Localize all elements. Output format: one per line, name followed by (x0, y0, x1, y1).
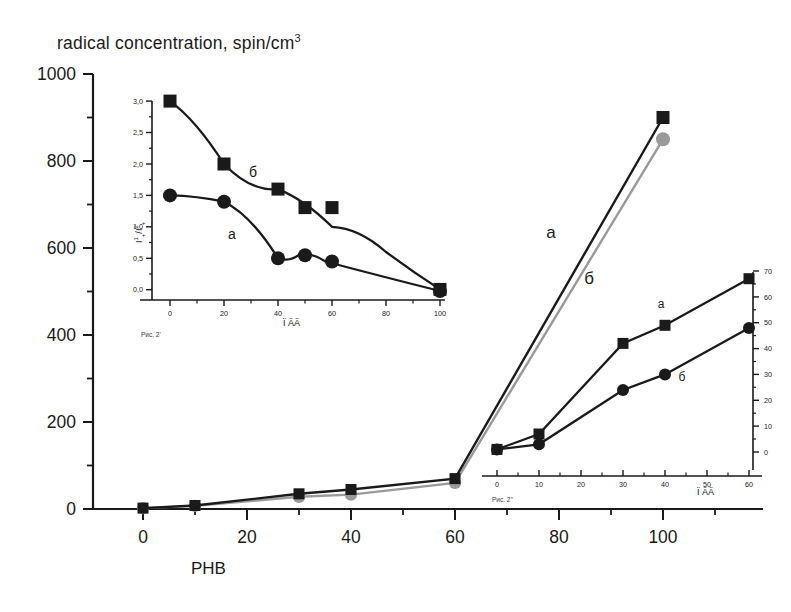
inset2-caption: Рис. 2'' (492, 496, 513, 503)
chart-page: radical concentration, spin/cm3 PHB (0, 0, 791, 612)
data-point (325, 255, 339, 269)
inset2-y-tick-label-60: 60 (764, 293, 772, 302)
data-point (744, 273, 755, 284)
main-series-label-b: б (584, 269, 594, 288)
inset1-y-tick-label-0: 0,0 (133, 285, 143, 294)
main-y-tick-label-400: 400 (47, 325, 76, 345)
data-point (450, 473, 461, 484)
data-point (299, 201, 312, 214)
data-point (656, 132, 670, 146)
data-point (326, 201, 339, 214)
inset1-x-tick-label-80: 80 (382, 309, 390, 318)
inset2-y-tick-label-10: 10 (764, 422, 772, 431)
main-y-tick-label-800: 800 (47, 151, 76, 171)
main-chart-canvas: 0 200 400 600 800 1000 0 20 40 60 80 100 (0, 0, 791, 612)
inset1-x-tick-label-20: 20 (220, 309, 228, 318)
inset2-x-tick-label-10: 10 (535, 480, 543, 489)
inset2-series-a (492, 273, 755, 455)
main-x-tick-label-60: 60 (445, 527, 465, 547)
data-point (657, 111, 670, 124)
inset1-y-ticks (146, 101, 152, 290)
main-y-tick-label-200: 200 (47, 412, 76, 432)
data-point (217, 195, 231, 209)
data-point (218, 158, 231, 171)
main-x-tick-label-0: 0 (138, 527, 148, 547)
data-point (491, 443, 503, 455)
inset1-y-tick-label-15: 1,5 (133, 191, 143, 200)
data-point (272, 183, 285, 196)
data-point (163, 188, 177, 202)
inset2-chart: 0 10 20 30 40 50 60 70 0 10 20 30 40 50 … (482, 267, 772, 489)
inset1-x-tick-label-40: 40 (274, 309, 282, 318)
inset2-y-tick-label-50: 50 (764, 318, 772, 327)
main-y-tick-label-600: 600 (47, 238, 76, 258)
inset1-y-tick-label-25: 2,5 (133, 128, 143, 137)
inset2-y-tick-label-70: 70 (764, 267, 772, 276)
inset2-x-tick-label-30: 30 (619, 480, 627, 489)
main-series-a (138, 111, 670, 514)
inset2-series-label-a: a (658, 297, 665, 311)
main-series-label-a: a (546, 223, 556, 242)
data-point (618, 338, 629, 349)
inset2-x-axis-label: Ї ÃÄ (697, 487, 714, 497)
inset2-y-tick-label-20: 20 (764, 396, 772, 405)
inset1-y-tick-label-20: 2,0 (133, 160, 143, 169)
data-point (346, 484, 357, 495)
inset1-y-axis-label: I1+/I2+ (133, 222, 146, 243)
data-point (271, 251, 285, 265)
main-y-tick-label-1000: 1000 (37, 64, 76, 84)
main-x-tick-label-80: 80 (549, 527, 569, 547)
inset2-series-label-b: б (679, 370, 686, 384)
main-series-b (137, 132, 670, 514)
inset1-y-tick-label-30: 3,0 (133, 97, 143, 106)
inset2-x-ticks (497, 470, 749, 476)
inset1-x-tick-label-0: 0 (168, 309, 172, 318)
data-point (533, 438, 545, 450)
data-point (164, 95, 177, 108)
inset2-y-tick-label-40: 40 (764, 344, 772, 353)
data-point (659, 368, 671, 380)
inset1-x-tick-label-100: 100 (434, 309, 446, 318)
inset1-x-tick-label-60: 60 (328, 309, 336, 318)
inset1-x-axis-label: Ї ÃÄ (283, 318, 300, 328)
main-x-tick-label-40: 40 (341, 527, 361, 547)
main-x-tick-label-20: 20 (237, 527, 257, 547)
inset1-chart: 0,0 0,5 1,0 1,5 2,0 2,5 3,0 0 20 40 60 8… (133, 95, 447, 318)
data-point (294, 488, 305, 499)
data-point (298, 248, 312, 262)
data-point (190, 500, 201, 511)
data-point (534, 429, 545, 440)
main-y-tick-label-0: 0 (66, 499, 76, 519)
inset2-y-tick-label-30: 30 (764, 370, 772, 379)
inset2-x-tick-label-0: 0 (495, 480, 499, 489)
data-point (660, 320, 671, 331)
inset2-x-tick-label-40: 40 (661, 480, 669, 489)
main-x-tick-label-100: 100 (648, 527, 677, 547)
data-point (617, 384, 629, 396)
inset1-series-label-a: a (228, 226, 236, 242)
inset1-caption: Рис. 2' (141, 331, 161, 338)
inset1-series-label-b: б (249, 164, 257, 180)
inset2-x-tick-label-60: 60 (745, 480, 753, 489)
inset1-series-b (164, 95, 447, 296)
data-point (743, 322, 755, 334)
inset2-x-tick-label-20: 20 (577, 480, 585, 489)
inset2-y-tick-label-0: 0 (764, 448, 768, 457)
data-point (138, 503, 149, 514)
inset1-y-tick-label-05: 0,5 (133, 254, 143, 263)
data-point (433, 284, 447, 298)
